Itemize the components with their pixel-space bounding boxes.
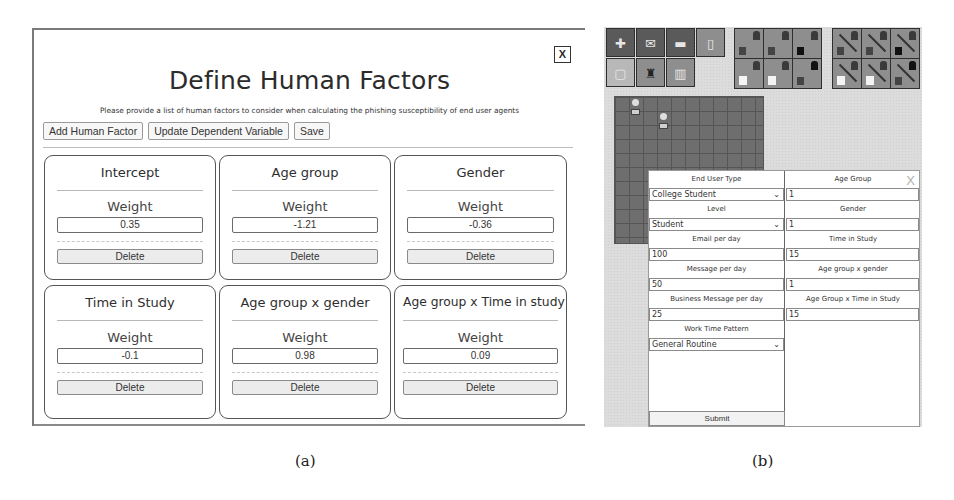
divider	[407, 190, 554, 191]
delete-button[interactable]: Delete	[232, 249, 378, 264]
weight-input[interactable]: 0.98	[232, 348, 378, 364]
unlink-document-icon[interactable]	[833, 59, 861, 88]
gender-input[interactable]: 1	[786, 218, 919, 231]
time-in-study-label: Time in Study	[786, 231, 920, 248]
link-document-icon[interactable]	[735, 59, 763, 88]
factor-name: Intercept	[57, 165, 203, 185]
dialog-subtitle: Please provide a list of human factors t…	[34, 106, 585, 115]
unlink-image-icon[interactable]	[862, 59, 890, 88]
simulation-workspace: ✚ ✉ ▬ ▯ ▢ ♜ ▥ X End User Type College St…	[604, 27, 922, 427]
delete-button[interactable]: Delete	[57, 249, 203, 264]
divider	[57, 320, 203, 321]
link-flag-icon[interactable]	[793, 29, 821, 58]
time-in-study-input[interactable]: 15	[786, 248, 919, 261]
factor-grid: Intercept Weight 0.35 Delete Age group W…	[44, 155, 567, 419]
link-agents-icon[interactable]	[735, 29, 763, 58]
add-document-icon[interactable]: ▢	[606, 58, 635, 87]
unlink-flag-icon[interactable]	[891, 29, 919, 58]
divider	[232, 320, 378, 321]
level-select[interactable]: Student⌄	[649, 218, 784, 231]
caption-b: (b)	[752, 452, 773, 470]
factor-name: Time in Study	[57, 295, 203, 315]
weight-input[interactable]: 0.09	[403, 348, 558, 364]
work-time-pattern-select[interactable]: General Routine⌄	[649, 338, 784, 351]
select-value: Student	[652, 220, 684, 229]
add-agent-icon[interactable]: ✚	[606, 28, 635, 57]
factor-card-time-in-study: Time in Study Weight -0.1 Delete	[44, 285, 216, 419]
delete-button[interactable]: Delete	[407, 249, 554, 264]
unlink-agents-icon[interactable]	[833, 29, 861, 58]
divider	[57, 190, 203, 191]
unlink-agent-icon[interactable]	[862, 29, 890, 58]
delete-button[interactable]: Delete	[232, 380, 378, 395]
weight-label: Weight	[407, 199, 554, 214]
end-user-form: X End User Type College Student⌄ Level S…	[648, 170, 920, 427]
dialog-title: Define Human Factors	[34, 66, 585, 95]
save-button[interactable]: Save	[294, 122, 330, 140]
agent-computer-icon[interactable]	[631, 99, 640, 117]
add-email-icon[interactable]: ✉	[636, 28, 665, 57]
email-per-day-label: Email per day	[649, 231, 784, 248]
age-group-x-time-in-study-label: Age Group x Time in Study	[786, 291, 920, 308]
age-group-x-gender-input[interactable]: 1	[786, 278, 919, 291]
email-per-day-input[interactable]: 100	[649, 248, 784, 261]
form-left-column: End User Type College Student⌄ Level Stu…	[649, 171, 785, 426]
factor-card-intercept: Intercept Weight 0.35 Delete	[44, 155, 216, 280]
define-human-factors-dialog: X Define Human Factors Please provide a …	[32, 28, 585, 426]
divider	[232, 190, 378, 191]
chevron-down-icon: ⌄	[773, 339, 780, 350]
bars-chart-icon[interactable]: ▥	[666, 58, 695, 87]
link-image-icon[interactable]	[764, 59, 792, 88]
end-user-type-select[interactable]: College Student⌄	[649, 188, 784, 201]
divider	[407, 241, 554, 242]
weight-input[interactable]: 0.35	[57, 217, 203, 233]
weight-input[interactable]: -0.1	[57, 348, 203, 364]
delete-button[interactable]: Delete	[403, 380, 558, 395]
unlink-message-icon[interactable]	[891, 59, 919, 88]
divider	[232, 241, 378, 242]
age-group-input[interactable]: 1	[786, 188, 919, 201]
gender-label: Gender	[786, 201, 920, 218]
form-right-column: Age Group 1 Gender 1 Time in Study 15 Ag…	[786, 171, 920, 426]
chevron-down-icon: ⌄	[773, 219, 780, 230]
business-message-per-day-label: Business Message per day	[649, 291, 784, 308]
business-message-per-day-input[interactable]: 25	[649, 308, 784, 321]
divider	[57, 241, 203, 242]
weight-label: Weight	[403, 330, 558, 345]
toolbar: Add Human Factor Update Dependent Variab…	[43, 122, 330, 140]
delete-button[interactable]: Delete	[57, 380, 203, 395]
divider	[57, 372, 203, 373]
factor-card-gender: Gender Weight -0.36 Delete	[394, 155, 567, 280]
factor-name: Age group x Time in study	[403, 295, 558, 315]
weight-label: Weight	[57, 330, 203, 345]
agent-computer-icon[interactable]: ♜	[636, 58, 665, 87]
toolbar-group-unlink	[832, 28, 920, 89]
agent-computer-icon[interactable]	[659, 113, 668, 131]
message-per-day-label: Message per day	[649, 261, 784, 278]
select-value: General Routine	[652, 340, 717, 349]
weight-label: Weight	[232, 330, 378, 345]
factor-name: Age group x gender	[232, 295, 378, 315]
factor-card-age-group: Age group Weight -1.21 Delete	[219, 155, 391, 280]
submit-button[interactable]: Submit	[649, 411, 785, 426]
factor-card-age-group-x-gender: Age group x gender Weight 0.98 Delete	[219, 285, 391, 419]
end-user-type-label: End User Type	[649, 171, 784, 188]
add-monitor-icon[interactable]: ▬	[666, 28, 695, 57]
link-message-icon[interactable]	[793, 59, 821, 88]
toolbar-group-link	[734, 28, 822, 89]
age-group-x-time-in-study-input[interactable]: 15	[786, 308, 919, 321]
work-time-pattern-label: Work Time Pattern	[649, 321, 784, 338]
toolbar-group-create: ✚ ✉ ▬ ▯ ▢ ♜ ▥	[606, 28, 725, 87]
weight-input[interactable]: -1.21	[232, 217, 378, 233]
factor-name: Age group	[232, 165, 378, 185]
message-per-day-input[interactable]: 50	[649, 278, 784, 291]
caption-a: (a)	[295, 452, 316, 470]
clipboard-icon[interactable]: ▯	[696, 28, 725, 57]
link-agent-icon[interactable]	[764, 29, 792, 58]
update-dependent-variable-button[interactable]: Update Dependent Variable	[148, 122, 289, 140]
divider	[403, 372, 558, 373]
close-button[interactable]: X	[554, 46, 571, 63]
select-value: College Student	[652, 190, 716, 199]
weight-input[interactable]: -0.36	[407, 217, 554, 233]
add-human-factor-button[interactable]: Add Human Factor	[43, 122, 143, 140]
